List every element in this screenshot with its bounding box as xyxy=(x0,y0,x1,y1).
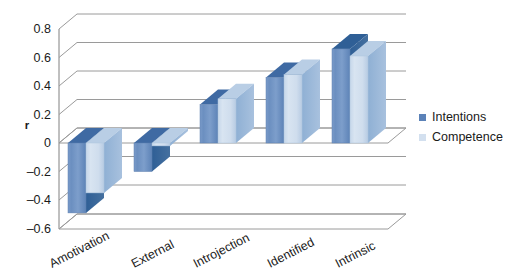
x-tick-label-external: External xyxy=(129,237,176,270)
y-tick-label: 0 xyxy=(44,136,51,150)
legend-item-intentions[interactable]: Intentions xyxy=(419,110,486,124)
legend-swatch-competence xyxy=(419,134,426,141)
x-tick-label-introjection: Introjection xyxy=(191,230,252,270)
y-tick-label: 0.2 xyxy=(34,108,51,122)
x-tick-label-amotivation: Amotivation xyxy=(47,229,112,271)
x-tick-label-intrinsic: Intrinsic xyxy=(333,239,378,271)
bar-identified-competence[interactable] xyxy=(284,60,320,144)
bar-chart: 0.8 0.6 0.4 0.2 0 –0.2 –0.4 –0.6 r xyxy=(0,0,524,277)
legend-label-competence: Competence xyxy=(432,130,503,144)
chart-legend: Intentions Competence xyxy=(419,110,503,144)
bar-group-amotivation xyxy=(68,128,122,213)
bar-group-identified xyxy=(266,60,320,144)
legend-label-intentions: Intentions xyxy=(432,110,486,124)
y-tick-label: 0.6 xyxy=(34,51,51,65)
bar-intrinsic-competence[interactable] xyxy=(350,41,386,143)
y-tick-label: –0.2 xyxy=(27,165,51,179)
legend-swatch-intentions xyxy=(419,114,426,121)
legend-item-competence[interactable]: Competence xyxy=(419,130,503,144)
y-tick-label: –0.4 xyxy=(27,193,51,207)
bar-group-introjection xyxy=(200,84,254,143)
y-tick-labels: 0.8 0.6 0.4 0.2 0 –0.2 –0.4 –0.6 xyxy=(27,22,51,236)
y-axis-title: r xyxy=(25,119,30,131)
y-tick-label: 0.4 xyxy=(34,79,51,93)
x-axis-labels: Amotivation External Introjection Identi… xyxy=(47,229,378,271)
y-tick-label: –0.6 xyxy=(27,222,51,236)
bar-group-external xyxy=(134,128,188,172)
y-tick-label: 0.8 xyxy=(34,22,51,36)
bar-group-intrinsic xyxy=(332,34,386,143)
plot-floor xyxy=(59,214,406,229)
chart-container: 0.8 0.6 0.4 0.2 0 –0.2 –0.4 –0.6 r xyxy=(0,0,524,277)
x-tick-label-identified: Identified xyxy=(265,235,317,271)
